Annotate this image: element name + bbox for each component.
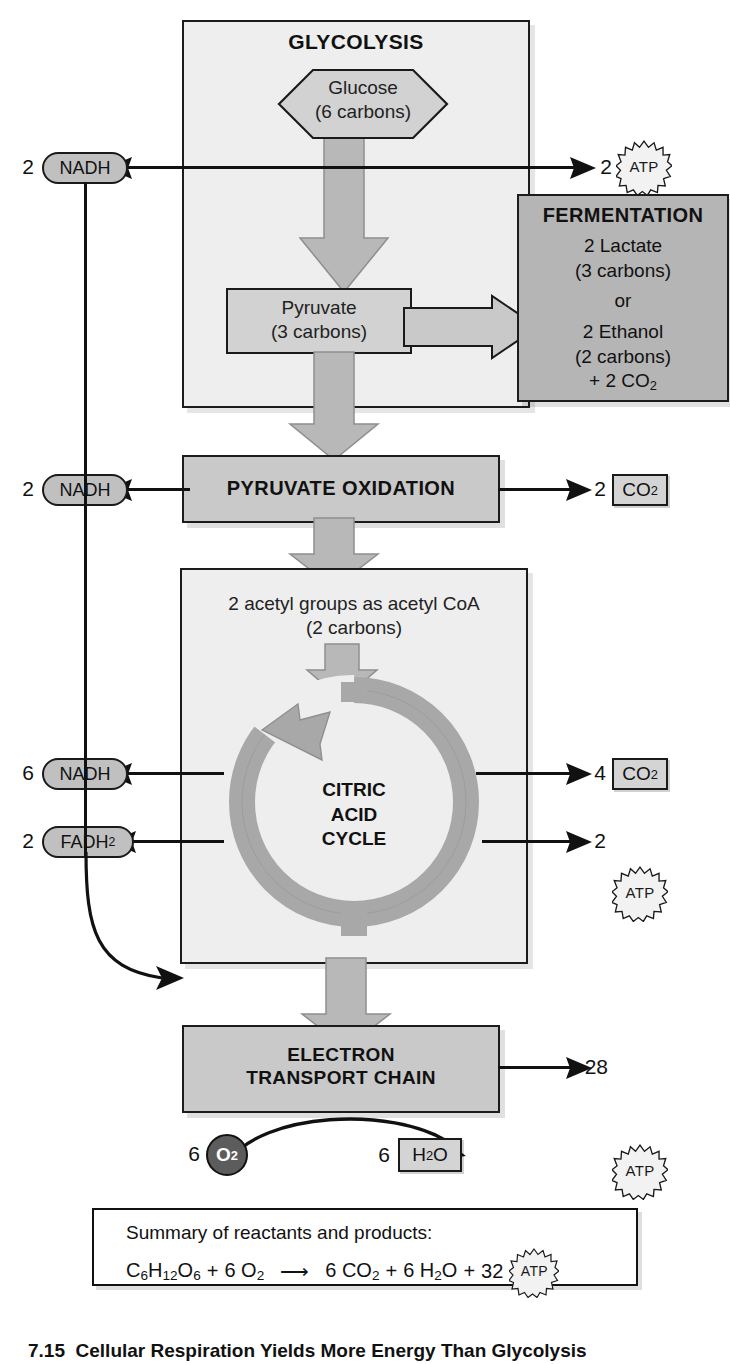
- etc-title-line-2: TRANSPORT CHAIN: [182, 1066, 500, 1089]
- glucose-name: Glucose: [277, 76, 449, 100]
- acetyl-coa-line-1: 2 acetyl groups as acetyl CoA: [180, 592, 528, 616]
- summary-atp-badge: ATP: [509, 1248, 559, 1294]
- fermentation-line-3: or: [517, 289, 729, 314]
- glucose-label-group: Glucose (6 carbons): [277, 76, 449, 124]
- etc-atp-label: ATP: [626, 1162, 655, 1179]
- pyrox-co2-line: [498, 488, 574, 491]
- cac-atp-badge: ATP: [612, 866, 668, 918]
- carrier-trunk-line: [84, 182, 87, 858]
- cac-atp-coefficient: 2: [588, 826, 606, 856]
- fermentation-line-4: 2 Ethanol: [517, 320, 729, 345]
- summary-atp-label: ATP: [521, 1263, 548, 1279]
- oxygen-molecule: O2: [206, 1134, 248, 1176]
- fermentation-body: 2 Lactate (3 carbons) or 2 Ethanol (2 ca…: [517, 234, 729, 395]
- oxygen-prefix: O: [216, 1144, 231, 1166]
- etc-title-line-1: ELECTRON: [182, 1043, 500, 1066]
- acetyl-coa-line-2: (2 carbons): [180, 616, 528, 640]
- pyrox-co2-box: CO2: [612, 474, 668, 506]
- cac-co2-sub: 2: [651, 767, 658, 782]
- summary-heading: Summary of reactants and products:: [126, 1222, 432, 1244]
- glycolysis-atp-arrowhead: [570, 155, 596, 181]
- fermentation-line-2: (3 carbons): [517, 259, 729, 284]
- acetyl-coa-label-group: 2 acetyl groups as acetyl CoA (2 carbons…: [180, 592, 528, 640]
- summary-plus-1: +: [207, 1260, 219, 1283]
- glycolysis-nadh-coefficient: 2: [12, 152, 34, 182]
- cac-atp-line: [482, 840, 574, 843]
- water-h: H: [412, 1144, 426, 1166]
- water-box: H2O: [398, 1138, 462, 1172]
- citric-acid-cycle-title: CITRIC ACID CYCLE: [240, 778, 468, 852]
- fermentation-co2-prefix: + 2 CO: [589, 370, 650, 391]
- fermentation-line-6: + 2 CO2: [517, 369, 729, 395]
- glucose-carbons: (6 carbons): [277, 100, 449, 124]
- pyrox-nadh-coefficient: 2: [12, 474, 34, 504]
- cac-title-line-1: CITRIC: [240, 778, 468, 803]
- summary-oxygen: 6 O2: [224, 1259, 264, 1283]
- caption-text: Cellular Respiration Yields More Energy …: [76, 1340, 587, 1361]
- carriers-to-etc-curve: [70, 852, 270, 1012]
- cac-co2-line: [476, 772, 574, 775]
- pyrox-co2-prefix: CO: [622, 479, 651, 501]
- pyrox-co2-sub: 2: [651, 483, 658, 498]
- summary-h2o: 6 H2O: [403, 1259, 457, 1283]
- electron-transport-chain-title: ELECTRON TRANSPORT CHAIN: [182, 1043, 500, 1089]
- fermentation-line-1: 2 Lactate: [517, 234, 729, 259]
- oxygen-sub: 2: [231, 1148, 238, 1163]
- pyruvate-label-group: Pyruvate (3 carbons): [226, 296, 412, 344]
- pyruvate-carbons: (3 carbons): [226, 320, 412, 344]
- pyruvate-name: Pyruvate: [226, 296, 412, 320]
- water-sub: 2: [426, 1148, 433, 1163]
- glycolysis-atp-label: ATP: [630, 158, 659, 175]
- summary-arrow-icon: ⟶: [280, 1259, 309, 1283]
- glycolysis-title: GLYCOLYSIS: [182, 30, 530, 54]
- figure-caption: 7.15 Cellular Respiration Yields More En…: [28, 1340, 587, 1362]
- cac-atp-label: ATP: [626, 884, 655, 901]
- cac-co2-box: CO2: [612, 758, 668, 790]
- glycolysis-atp-badge: ATP: [616, 140, 672, 192]
- summary-equation: C6H12O6 + 6 O2 ⟶ 6 CO2 + 6 H2O + 32 ATP: [126, 1248, 559, 1294]
- cac-nadh-line: [124, 772, 224, 775]
- glycolysis-atp-coefficient: 2: [594, 152, 612, 182]
- etc-atp-line: [498, 1066, 574, 1069]
- water-coefficient: 6: [372, 1140, 390, 1170]
- figure-canvas: GLYCOLYSIS Glucose (6 carbons) Pyruvate …: [0, 0, 730, 1364]
- summary-co2: 6 CO2: [325, 1259, 379, 1283]
- fermentation-title: FERMENTATION: [517, 204, 729, 227]
- etc-atp-coefficient: 28: [578, 1052, 608, 1082]
- oxygen-coefficient: 6: [182, 1138, 200, 1170]
- pyruvate-to-pyruvate-oxidation-arrow: [292, 352, 382, 462]
- water-o: O: [433, 1144, 448, 1166]
- etc-atp-badge: ATP: [612, 1144, 668, 1196]
- pyrox-co2-coefficient: 2: [588, 474, 606, 504]
- cac-fadh2-sub: 2: [109, 835, 116, 849]
- glycolysis-nadh-carrier: NADH: [42, 152, 128, 184]
- pyrox-nadh-line: [124, 488, 190, 491]
- cac-fadh2-line: [128, 840, 224, 843]
- cac-fadh2-coefficient: 2: [12, 826, 34, 856]
- summary-plus-3: +: [463, 1260, 475, 1283]
- glycolysis-nadh-label: NADH: [59, 158, 110, 179]
- cac-nadh-coefficient: 6: [12, 758, 34, 788]
- cac-co2-coefficient: 4: [588, 758, 606, 788]
- summary-atp-coefficient: 32: [481, 1260, 503, 1283]
- cac-title-line-3: CYCLE: [240, 827, 468, 852]
- fermentation-co2-sub: 2: [650, 378, 657, 393]
- summary-plus-2: +: [385, 1260, 397, 1283]
- caption-number: 7.15: [28, 1340, 65, 1361]
- cac-title-line-2: ACID: [240, 803, 468, 828]
- cac-co2-prefix: CO: [622, 763, 651, 785]
- glycolysis-atp-line: [340, 166, 580, 169]
- fermentation-line-5: (2 carbons): [517, 345, 729, 370]
- pyruvate-oxidation-title: PYRUVATE OXIDATION: [182, 477, 500, 500]
- summary-glucose: C6H12O6: [126, 1259, 201, 1283]
